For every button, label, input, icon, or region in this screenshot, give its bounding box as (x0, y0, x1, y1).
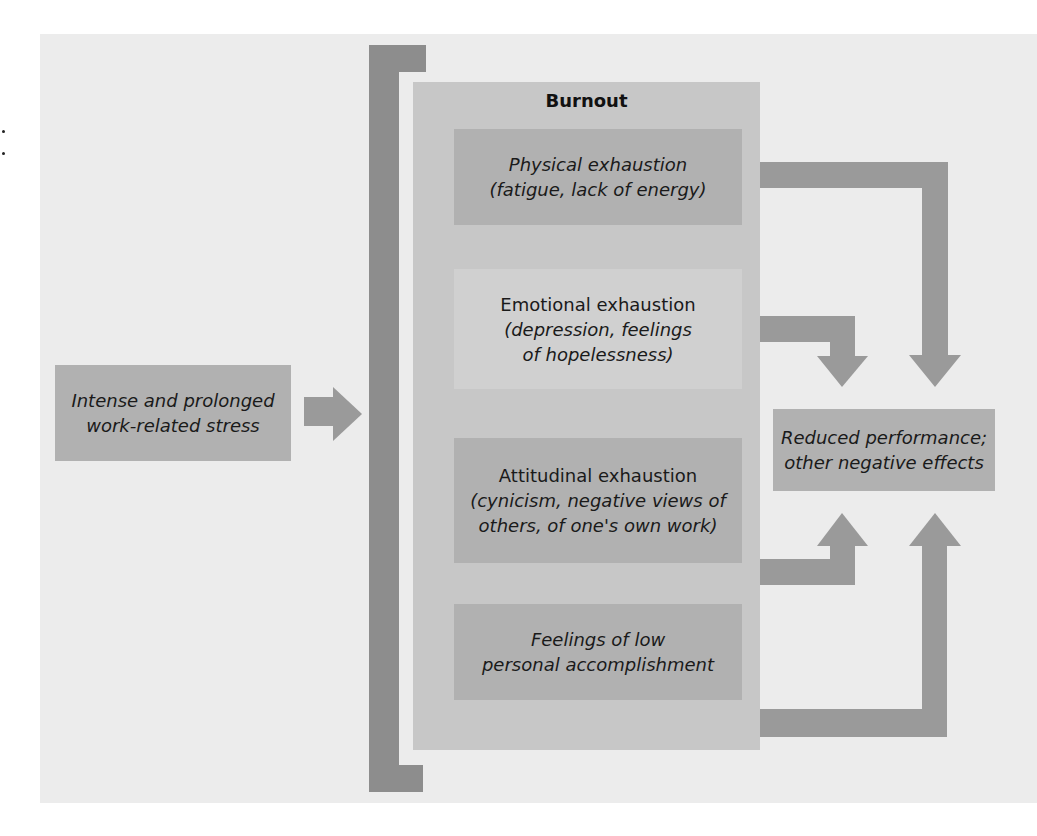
accomplishment-line-1: Feelings of low (531, 627, 665, 652)
arrow-up-icon (817, 513, 868, 546)
arrow-right-shaft (304, 397, 334, 426)
emotional-line-1: Emotional exhaustion (500, 292, 695, 317)
physical-exhaustion-box: Physical exhaustion (fatigue, lack of en… (454, 129, 742, 225)
arrow-accomplishment-v (922, 544, 947, 737)
margin-mark (2, 152, 5, 155)
attitudinal-line-1: Attitudinal exhaustion (499, 463, 697, 488)
physical-line-2: (fatigue, lack of energy) (489, 177, 706, 202)
attitudinal-line-3: others, of one's own work) (479, 513, 718, 538)
input-stress-box: Intense and prolonged work-related stres… (55, 365, 291, 461)
arrow-right-icon (333, 387, 362, 441)
arrow-attitudinal-v (830, 544, 855, 585)
emotional-line-2: (depression, feelings (504, 317, 692, 342)
arrow-up-icon (909, 513, 961, 546)
emotional-exhaustion-box: Emotional exhaustion (depression, feelin… (454, 269, 742, 389)
arrow-physical-v (922, 162, 948, 357)
attitudinal-line-2: (cynicism, negative views of (470, 488, 726, 513)
burnout-title: Burnout (413, 90, 760, 111)
physical-line-1: Physical exhaustion (509, 152, 687, 177)
bracket-top-arm (369, 45, 426, 72)
bracket-bottom-arm (369, 765, 423, 792)
margin-mark (2, 130, 5, 133)
input-line-2: work-related stress (86, 413, 260, 438)
emotional-line-3: of hopelessness) (522, 342, 673, 367)
arrow-accomplishment-h (760, 709, 947, 737)
output-effects-box: Reduced performance; other negative effe… (773, 409, 995, 491)
arrow-physical-h (760, 162, 948, 188)
input-line-1: Intense and prolonged (71, 388, 274, 413)
attitudinal-exhaustion-box: Attitudinal exhaustion (cynicism, negati… (454, 438, 742, 563)
arrow-down-icon (909, 355, 961, 387)
bracket-vertical (369, 45, 399, 792)
accomplishment-line-2: personal accomplishment (482, 652, 714, 677)
arrow-emotional-v (830, 316, 855, 358)
output-line-2: other negative effects (784, 450, 984, 475)
low-accomplishment-box: Feelings of low personal accomplishment (454, 604, 742, 700)
output-line-1: Reduced performance; (781, 425, 987, 450)
arrow-down-icon (817, 356, 868, 387)
